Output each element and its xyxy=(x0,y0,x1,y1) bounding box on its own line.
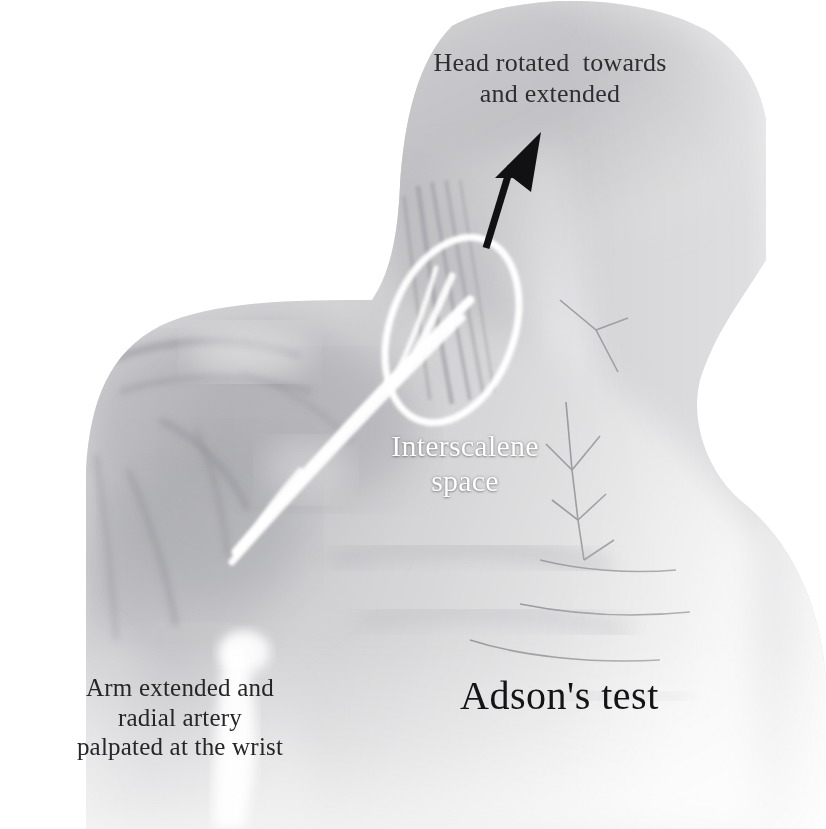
figure-title-adsons-test: Adson's test xyxy=(460,672,780,719)
label-head-rotated: Head rotated towards and extended xyxy=(400,48,700,109)
figure-root: Head rotated towards and extended Inters… xyxy=(0,0,826,829)
label-arm-extended: Arm extended and radial artery palpated … xyxy=(40,673,320,762)
label-interscalene-space: Interscalene space xyxy=(330,428,600,499)
cropped-caption-strip xyxy=(0,812,826,829)
